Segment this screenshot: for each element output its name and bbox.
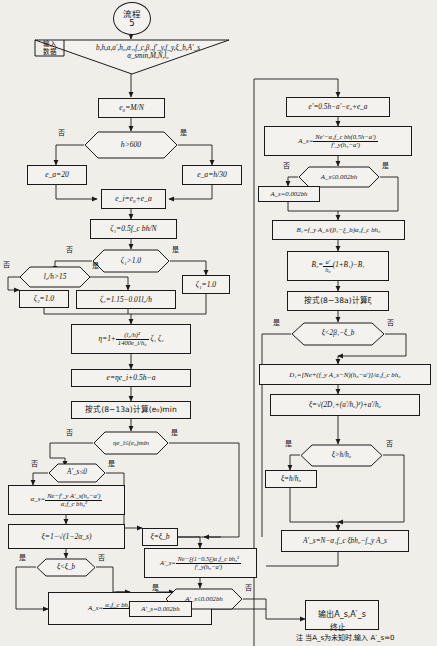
decision-as-002bh: A_s≤0.002bh (298, 166, 380, 188)
node-xi-sqrt: ξ=1−√(1−2α_s) (8, 524, 125, 549)
label-as0-yes: 是 (108, 461, 115, 468)
decision-xi-2beta-text: ξ<2β₁−ξ_b (291, 322, 385, 346)
label-eta-ei-yes: 是 (171, 430, 178, 437)
node-b2-denominator: h₀ (323, 267, 333, 274)
decision-zeta1-text: ζ₁>1.0 (92, 249, 170, 273)
flowchart-sheet: 流程 5 输入 数据 b,h,a,a′,h₀,α₁,f_c,β₁,f′_y,f_… (0, 0, 437, 646)
node-as-prime-prefix: A′_s= (160, 560, 176, 567)
input-params-line1: b,h,a,a′,h₀,α₁,f_c,β₁,f′_y,f_y,ξ_b,A′_s (96, 44, 200, 52)
label-l0h-yes: 是 (92, 263, 99, 270)
label-eta-ei-no: 否 (66, 430, 73, 437)
node-as-002bh: A_s=0.002bh (258, 186, 320, 202)
start-node: 流程 5 (113, 2, 151, 35)
node-alpha-s: α_s= Ne−f′_y A′_s(h₀−a′) α₁f_c bh₀² (8, 485, 125, 515)
node-e: e=ηe_i+0.5h−a (71, 369, 191, 387)
node-eta-prefix: η=1+ (99, 335, 116, 343)
node-b2-suffix: (1+B₁)−B₁ (333, 262, 365, 270)
decision-xi-lt-xib-text: ξ<ξ_b (36, 558, 96, 577)
decision-eta-ei: ηe_i≤(e₀)min (93, 431, 169, 455)
output-note: 注 当A_s为未知时,输入 A′_s=0 (296, 635, 394, 643)
node-ea-20: e_a=20 (27, 165, 87, 185)
input-params-line2: α_smin,M,N,l₀ (127, 52, 169, 60)
node-b2-fraction: a′ h₀ (323, 259, 333, 274)
node-xi-sqrt-d1: ξ=√(2D₁+(a′/h₀)²)+a′/h₀ (270, 394, 420, 416)
node-as-right: A_s= Ne′−α₁f_c bh(0.5h−a′) f′_y(h₀−a′) (264, 126, 412, 156)
node-as-final-prefix: A_s= (88, 605, 103, 612)
label-h600-yes: 是 (180, 130, 187, 137)
input-data-shape: 输入 数据 b,h,a,a′,h₀,α₁,f_c,β₁,f′_y,f_y,ξ_b… (34, 39, 230, 75)
node-xi-eq-xib: ξ=ξ_b (142, 528, 178, 546)
label-h600-no: 否 (58, 130, 65, 137)
node-as-prime-right: A′_s=N−α₁f_c ξbh₀−f_y A_s (281, 530, 409, 552)
label-xi-2beta-no: 否 (387, 320, 394, 327)
decision-h600: h>600 (84, 131, 178, 159)
start-label-line2: 5 (129, 19, 134, 28)
decision-zeta1: ζ₁>1.0 (92, 249, 170, 273)
decision-l0h-text: l₀/h>15 (19, 266, 91, 288)
node-e-prime: e′=0.5h−a′−e₀+e_a (286, 97, 390, 117)
decision-l0h: l₀/h>15 (19, 266, 91, 288)
decision-as-leq-0: A′_s≤0 (48, 463, 106, 483)
label-xi-xib-yes: 是 (19, 555, 26, 562)
node-eta-suffix: ζ₁ ζ₂ (149, 335, 164, 343)
label-zeta1-yes: 是 (172, 247, 179, 254)
label-as-prime-002-yes: 是 (152, 585, 159, 592)
output-terminator: 终止 (330, 624, 346, 632)
node-as-prime-fraction: Ne−ξ(1−0.5ξ)α₁f_c bh₀² f′_y(h₀−a′) (176, 556, 241, 570)
label-as-prime-002-no: 否 (245, 585, 252, 592)
node-eta: η=1+ (l₀/h)² 1400e_i/h₀ ζ₁ ζ₂ (71, 324, 191, 354)
label-as0-no: 否 (31, 461, 38, 468)
label-xi-xib-no: 否 (98, 555, 105, 562)
node-alpha-s-denominator: α₁f_c bh₀² (45, 501, 102, 508)
label-xi-2beta-yes: 是 (273, 320, 280, 327)
node-as-right-fraction: Ne′−α₁f_c bh(0.5h−a′) f′_y(h₀−a′) (313, 134, 377, 149)
decision-xi-2beta: ξ<2β₁−ξ_b (291, 322, 385, 346)
node-eta-fraction: (l₀/h)² 1400e_i/h₀ (116, 332, 149, 347)
node-d1: D₁=[Ne+(f_y A_s−N)(h₀−a′)]/α₁f_c bh₀ (259, 364, 431, 385)
node-ea-h30: e_a=h/30 (182, 165, 242, 185)
label-as-002-no: 否 (283, 163, 290, 170)
decision-xi-gt-hh0: ξ>h/h₀ (300, 444, 383, 467)
node-zeta2-eq1: ζ₂=1.0 (19, 290, 69, 308)
decision-eta-ei-text: ηe_i≤(e₀)min (93, 431, 169, 455)
input-data-params: b,h,a,a′,h₀,α₁,f_c,β₁,f′_y,f_y,ξ_b,A′_s … (68, 39, 228, 65)
node-e0: e₀=M/N (98, 98, 165, 118)
node-eta-denominator: 1400e_i/h₀ (116, 340, 149, 347)
node-zeta1: ζ₁=0.5f_c bh/N (90, 219, 177, 239)
node-b1: B₁=f_y A_s/(β₁−ξ_b)α₁f_c bh₀ (272, 220, 405, 240)
input-data-tag: 输入 数据 (35, 40, 65, 57)
node-b2: B₂= a′ h₀ (1+B₁)−B₁ (287, 251, 389, 281)
node-alpha-s-prefix: α_s= (31, 496, 46, 503)
node-zeta2: ζ₂=1.15−0.01l₀/h (76, 290, 176, 309)
node-as-right-prefix: A_s= (298, 137, 313, 144)
node-alpha-s-fraction: Ne−f′_y A′_s(h₀−a′) α₁f_c bh₀² (45, 493, 102, 508)
node-xi-eq-hh0: ξ=h/h₀ (265, 470, 317, 488)
node-as-prime-denominator: f′_y(h₀−a′) (176, 564, 241, 571)
node-as-right-denominator: f′_y(h₀−a′) (313, 142, 377, 149)
decision-xi-gt-hh0-text: ξ>h/h₀ (300, 444, 383, 467)
node-formula-8-38a: 按式(8−38a)计算ξ (287, 291, 389, 311)
node-zeta1-eq1: ζ₁=1.0 (182, 275, 230, 294)
label-as-002-yes: 是 (382, 163, 389, 170)
decision-h600-text: h>600 (84, 131, 178, 159)
decision-xi-lt-xib: ξ<ξ_b (36, 558, 96, 577)
node-ei: e_i=e₀+e_a (101, 189, 166, 209)
label-zeta1-no: 否 (66, 247, 73, 254)
label-l0h-no: 否 (3, 262, 10, 269)
decision-as-002bh-text: A_s≤0.002bh (298, 166, 380, 188)
decision-as-leq-0-text: A′_s≤0 (48, 463, 106, 483)
input-tag-line2: 数据 (43, 49, 57, 56)
node-as-prime-formula: A′_s= Ne−ξ(1−0.5ξ)α₁f_c bh₀² f′_y(h₀−a′) (144, 548, 257, 578)
node-as-prime-002bh-box: A′_s=0.002bh (129, 601, 192, 617)
label-xi-hh0-no: 否 (386, 441, 393, 448)
node-b2-prefix: B₂= (311, 262, 323, 270)
node-formula-8-13a: 按式(8−13a)计算(e₀)min (71, 401, 191, 419)
label-xi-hh0-yes: 是 (285, 441, 292, 448)
